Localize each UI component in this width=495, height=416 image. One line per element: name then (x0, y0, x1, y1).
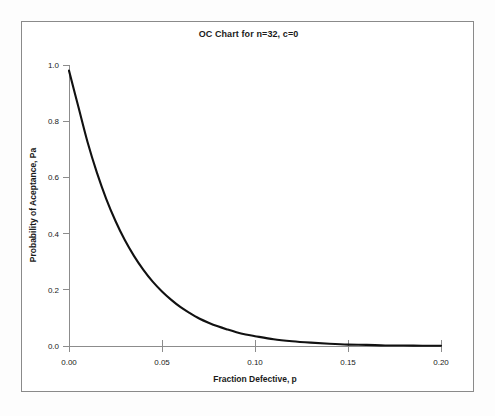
y-axis-ticks (63, 65, 69, 346)
y-axis-title: Probability of Aceptance, Pa (28, 147, 38, 262)
y-tick-label: 0.0 (48, 342, 60, 351)
x-tick-label: 0.05 (154, 358, 170, 367)
y-tick-label: 0.6 (48, 173, 60, 182)
y-tick-label: 0.8 (48, 117, 60, 126)
y-tick-label: 1.0 (48, 61, 60, 70)
x-tick-label: 0.20 (433, 358, 449, 367)
x-axis-title: Fraction Defective, p (213, 374, 297, 384)
oc-curve (69, 71, 441, 346)
x-tick-label: 0.00 (61, 358, 77, 367)
y-tick-label: 0.4 (48, 230, 60, 239)
y-tick-labels: 0.0 0.2 0.4 0.6 0.8 1.0 (48, 61, 60, 351)
x-tick-labels: 0.00 0.05 0.10 0.15 0.20 (61, 358, 449, 367)
x-tick-label: 0.10 (247, 358, 263, 367)
chart-figure-frame: OC Chart for n=32, c=0 (21, 21, 474, 392)
y-tick-label: 0.2 (48, 286, 60, 295)
x-tick-label: 0.15 (340, 358, 356, 367)
oc-chart-plot: 0.0 0.2 0.4 0.6 0.8 1.0 0.00 0.05 0.10 0… (22, 22, 475, 393)
screenshot-canvas: OC Chart for n=32, c=0 (0, 0, 495, 416)
